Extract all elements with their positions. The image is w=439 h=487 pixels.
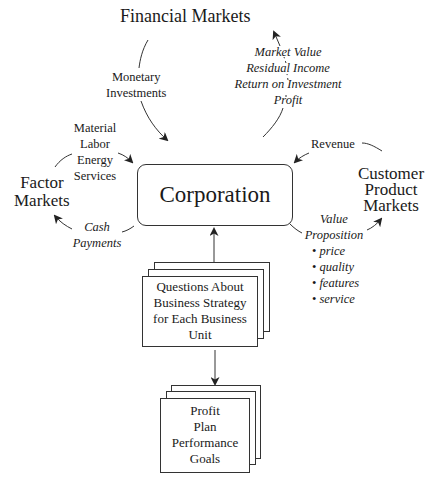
- revenue-label: Revenue: [311, 136, 355, 152]
- profit-plan-node: Profit Plan Performance Goals: [160, 398, 250, 473]
- factor-markets-node: Factor Markets: [14, 174, 70, 210]
- value-item-price: price: [312, 243, 366, 259]
- strategy-questions-node: Questions About Business Strategy for Ea…: [142, 276, 258, 347]
- value-item-quality: quality: [312, 259, 366, 275]
- monetary-investments-label: Monetary Investments: [106, 69, 166, 101]
- value-proposition-label: Value Proposition price quality features…: [302, 211, 366, 307]
- financial-returns-label: Market Value Residual Income Return on I…: [230, 44, 346, 108]
- corporation-node: Corporation: [137, 164, 293, 226]
- value-item-service: service: [312, 291, 366, 307]
- value-proposition-list: price quality features service: [312, 243, 366, 307]
- factor-inputs-label: Material Labor Energy Services: [72, 120, 118, 184]
- customer-product-markets-node: Customer Product Markets: [357, 166, 425, 214]
- cash-payments-label: Cash Payments: [72, 219, 122, 251]
- financial-markets-node: Financial Markets: [120, 6, 250, 26]
- value-item-features: features: [312, 275, 366, 291]
